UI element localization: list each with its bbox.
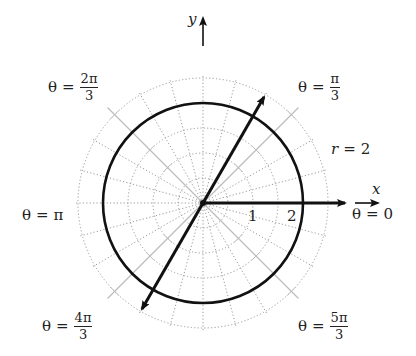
equals-sign: = bbox=[36, 208, 49, 223]
denominator: 3 bbox=[335, 327, 343, 342]
numerator: π bbox=[330, 72, 341, 88]
theta-value: 0 bbox=[384, 207, 394, 222]
label-theta-4pi-3: θ = 4π 3 bbox=[42, 311, 92, 341]
numerator: 5π bbox=[330, 311, 349, 327]
circle-label-value: 2 bbox=[361, 142, 371, 157]
label-theta-pi-3: θ = π 3 bbox=[298, 72, 340, 102]
label-theta-5pi-3: θ = 5π 3 bbox=[298, 311, 348, 341]
theta-symbol: θ bbox=[352, 207, 361, 222]
label-theta-pi: θ = π bbox=[22, 208, 63, 223]
equals-sign: = bbox=[312, 319, 325, 334]
equals-sign: = bbox=[56, 319, 69, 334]
radial-tick-1: 1 bbox=[248, 207, 258, 225]
label-theta-0: θ = 0 bbox=[352, 207, 393, 222]
origin-dot bbox=[200, 200, 206, 206]
denominator: 3 bbox=[79, 327, 87, 342]
ray-theta-pi-3 bbox=[203, 97, 264, 203]
theta-symbol: θ bbox=[298, 319, 307, 334]
theta-value: π bbox=[54, 208, 64, 223]
label-theta-2pi-3: θ = 2π 3 bbox=[48, 72, 98, 102]
fraction: π 3 bbox=[330, 72, 341, 102]
theta-symbol: θ bbox=[22, 208, 31, 223]
equals-sign: = bbox=[62, 80, 75, 95]
theta-symbol: θ bbox=[298, 80, 307, 95]
fraction: 2π 3 bbox=[80, 72, 99, 102]
polar-grid-canvas bbox=[0, 0, 416, 356]
polar-diagram: y x 1 2 r = 2 θ = 0 θ = π 3 θ = 2π 3 θ =… bbox=[0, 0, 416, 356]
fraction: 5π 3 bbox=[330, 311, 349, 341]
circle-label-eq: = bbox=[343, 142, 356, 157]
theta-symbol: θ bbox=[48, 80, 57, 95]
fraction: 4π 3 bbox=[74, 311, 93, 341]
radial-tick-2: 2 bbox=[287, 207, 297, 225]
theta-symbol: θ bbox=[42, 319, 51, 334]
equals-sign: = bbox=[366, 207, 379, 222]
numerator: 4π bbox=[74, 311, 93, 327]
equals-sign: = bbox=[312, 80, 325, 95]
denominator: 3 bbox=[85, 88, 93, 103]
circle-label: r = 2 bbox=[331, 142, 370, 157]
x-axis-label: x bbox=[372, 180, 380, 198]
denominator: 3 bbox=[331, 88, 339, 103]
circle-label-var: r bbox=[331, 142, 338, 157]
numerator: 2π bbox=[80, 72, 99, 88]
ray-theta-4pi-3 bbox=[142, 203, 203, 309]
y-axis-label: y bbox=[188, 10, 196, 28]
